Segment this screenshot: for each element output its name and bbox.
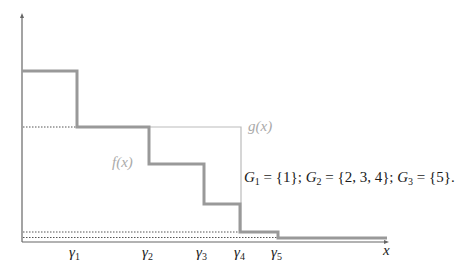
f-function-label: f(x) [112,154,133,171]
g-function-line [149,127,241,232]
g3-name: G [397,169,408,185]
gamma-2-label: γ2 [142,244,153,262]
step-function-diagram [0,0,459,277]
g1-name: G [244,169,255,185]
f-function-line [22,71,387,238]
gamma-5-label: γ5 [271,244,282,262]
gamma-4-label: γ4 [234,244,245,262]
group-equation: G1 = {1}; G2 = {2, 3, 4}; G3 = {5}. [244,169,455,187]
g1-value: = {1}; [260,169,306,185]
x-axis-label: x [383,242,390,259]
g2-name: G [306,169,317,185]
g-function-label: g(x) [248,118,272,135]
g3-value: = {5}. [413,169,455,185]
gamma-1-label: γ1 [69,244,80,262]
y-axis-arrow-icon [20,13,24,18]
gamma-3-label: γ3 [196,244,207,262]
g2-value: = {2, 3, 4}; [321,169,397,185]
